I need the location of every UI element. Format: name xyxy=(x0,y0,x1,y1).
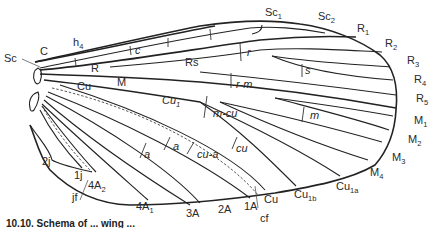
figure-caption: 10.10. Schema of ... wing ... xyxy=(6,218,135,228)
label-h4: h4 xyxy=(73,36,83,51)
label-1j: 1j xyxy=(74,169,83,181)
crossvein-c xyxy=(130,46,131,55)
label-crossvein-a2: a xyxy=(173,140,179,152)
vein-r5 xyxy=(200,72,396,95)
crossvein-m xyxy=(302,107,304,122)
crossvein-r xyxy=(240,43,241,61)
vein-media xyxy=(40,74,396,108)
label-crossvein-a1: a xyxy=(144,148,150,160)
label-crossvein-m: m xyxy=(310,109,319,121)
label-cu1b: Cu1b xyxy=(294,188,316,203)
label-m3: M3 xyxy=(392,151,405,166)
crossvein-cu-a xyxy=(187,142,194,154)
label-4a2: 4A2 xyxy=(88,179,106,194)
label-r3: R3 xyxy=(407,54,419,69)
label-r: R xyxy=(91,62,99,74)
label-crossvein-r-m: r-m xyxy=(236,78,252,90)
label-jf: jf xyxy=(71,191,78,203)
label-sc: Sc xyxy=(4,52,17,64)
label-sc2: Sc2 xyxy=(318,10,335,25)
vein-r3 xyxy=(272,56,390,67)
label-crossvein-s: s xyxy=(305,64,311,76)
label-cf: cf xyxy=(260,212,270,224)
label-3a: 3A xyxy=(186,207,200,219)
label-c: C xyxy=(40,45,48,57)
label-m4: M4 xyxy=(370,166,383,181)
label-sc1: Sc1 xyxy=(265,6,282,21)
label-r1: R1 xyxy=(357,22,369,37)
label-crossvein-c: c xyxy=(135,44,141,56)
label-cu: Cu xyxy=(77,80,91,92)
axillary-sclerite-1 xyxy=(34,68,42,84)
leader-sc xyxy=(22,59,40,67)
label-crossvein-cu: cu xyxy=(236,142,248,154)
leader-jf xyxy=(80,180,88,200)
vein-subcosta xyxy=(40,28,250,68)
label-rs: Rs xyxy=(185,56,199,68)
vein-3a xyxy=(44,100,190,205)
label-r2: R2 xyxy=(385,37,397,52)
label-1a: 1A xyxy=(244,200,258,212)
label-cu-margin: Cu xyxy=(264,193,278,205)
vein-m2 xyxy=(275,98,389,130)
crossvein-c3 xyxy=(210,29,211,40)
label-m2: M2 xyxy=(408,133,421,148)
label-2a: 2A xyxy=(218,203,232,215)
vein-sc1 xyxy=(252,25,262,34)
label-2j: 2j xyxy=(42,155,51,167)
wing-venation-diagram: Sc C h4 c Sc1 Sc2 R1 R2 R3 R4 R5 M1 M2 M… xyxy=(0,0,431,228)
label-r4: R4 xyxy=(414,73,426,88)
label-cu1a: Cu1a xyxy=(336,180,359,195)
label-crossvein-r: r xyxy=(247,46,252,58)
label-cu1: Cu1 xyxy=(162,94,180,109)
label-m1: M1 xyxy=(414,114,427,129)
label-r5: R5 xyxy=(416,92,428,107)
label-crossvein-cu-a: cu-a xyxy=(197,148,218,160)
crossvein-humeral xyxy=(75,58,76,66)
label-4a1: 4A1 xyxy=(136,200,154,215)
axillary-sclerite-2 xyxy=(29,92,38,111)
vein-radial-sector xyxy=(110,49,382,67)
label-crossvein-m-cu: m-cu xyxy=(213,107,237,119)
vein-r4 xyxy=(272,56,393,80)
label-m: M xyxy=(117,76,126,88)
